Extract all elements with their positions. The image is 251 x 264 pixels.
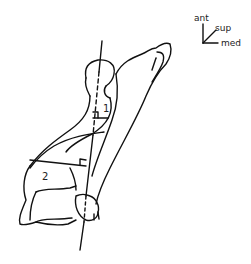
axis-label-med: med [221, 38, 241, 48]
anatomy-diagram: ant sup med 1 2 [0, 0, 251, 264]
axis-label-sup: sup [215, 23, 231, 33]
measurement-label-2: 2 [42, 171, 48, 182]
orientation-axes: ant sup med [194, 13, 241, 48]
measurement-2: 2 [30, 159, 86, 182]
shaft [30, 96, 111, 168]
measurement-label-1: 1 [103, 103, 109, 114]
lower-bone-head [75, 195, 99, 221]
axis-label-ant: ant [194, 13, 209, 23]
